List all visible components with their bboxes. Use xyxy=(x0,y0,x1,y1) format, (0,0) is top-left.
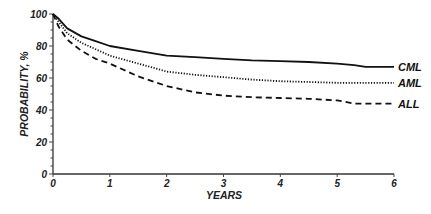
series-labels: CMLAMLALL xyxy=(397,61,422,110)
x-axis-title: YEARS xyxy=(206,189,242,201)
series-label-cml: CML xyxy=(398,61,422,73)
series-layer xyxy=(53,14,394,104)
x-tick-label: 3 xyxy=(221,178,227,189)
series-label-all: ALL xyxy=(397,98,420,110)
y-tick-label: 0 xyxy=(41,169,47,180)
x-axis: 0123456 xyxy=(50,174,397,189)
series-aml-line xyxy=(53,14,394,83)
x-tick-label: 0 xyxy=(50,178,56,189)
y-axis: 020406080100 xyxy=(30,9,53,180)
y-tick-label: 60 xyxy=(36,73,48,84)
survival-chart: 020406080100 0123456 CMLAMLALL PROBABILI… xyxy=(0,0,431,214)
y-axis-title: PROBABILITY, % xyxy=(18,51,30,137)
x-tick-label: 6 xyxy=(391,178,397,189)
y-tick-label: 20 xyxy=(35,137,48,148)
y-tick-label: 100 xyxy=(30,9,47,20)
x-tick-label: 1 xyxy=(107,178,113,189)
series-cml-line xyxy=(53,14,394,67)
series-label-aml: AML xyxy=(397,77,422,89)
y-tick-label: 40 xyxy=(35,105,48,116)
x-tick-label: 2 xyxy=(163,178,170,189)
x-tick-label: 5 xyxy=(334,178,340,189)
y-tick-label: 80 xyxy=(36,41,48,52)
x-tick-label: 4 xyxy=(277,178,284,189)
